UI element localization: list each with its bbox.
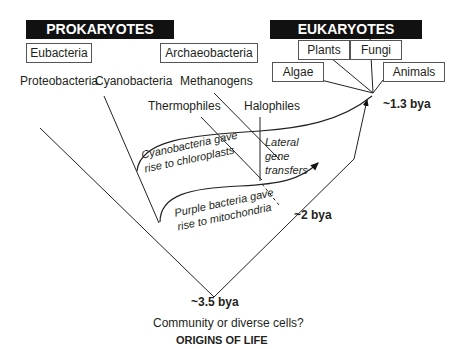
cyanobacteria-label: Cyanobacteria <box>95 74 172 88</box>
time-2-bya: ~2 bya <box>294 208 332 222</box>
methanogens-label: Methanogens <box>180 74 253 88</box>
time-1-3-bya: ~1.3 bya <box>383 97 431 111</box>
animals-box: Animals <box>383 62 445 82</box>
eubacteria-box: Eubacteria <box>26 43 92 63</box>
origin-question: Community or diverse cells? <box>153 316 304 330</box>
algae-box: Algae <box>272 62 324 82</box>
time-3-5-bya: ~3.5 bya <box>191 295 239 309</box>
archaeobacteria-box: Archaeobacteria <box>160 43 258 63</box>
proteobacteria-label: Proteobacteria <box>20 74 98 88</box>
lateral-gene-transfer-annotation: Lateral gene transfers <box>265 135 308 177</box>
thermophiles-label: Thermophiles <box>148 99 221 113</box>
fungi-box: Fungi <box>350 40 402 60</box>
origins-of-life-title: ORIGINS OF LIFE <box>176 334 268 346</box>
prokaryotes-header: PROKARYOTES <box>26 20 174 39</box>
halophiles-label: Halophiles <box>244 99 300 113</box>
plants-box: Plants <box>298 40 350 60</box>
tree-of-life-diagram: PROKARYOTES EUKARYOTES Eubacteria Archae… <box>0 0 450 349</box>
eukaryotes-header: EUKARYOTES <box>270 20 422 39</box>
